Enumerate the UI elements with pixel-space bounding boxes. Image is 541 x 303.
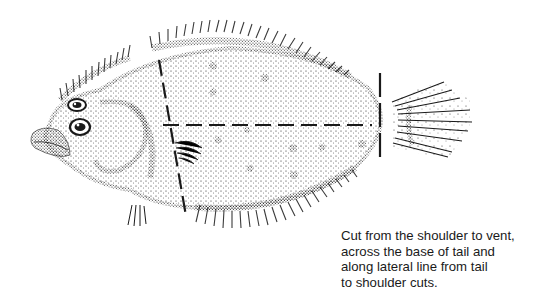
figure-caption: Cut from the shoulder to vent, across th… (341, 228, 541, 290)
caption-line: across the base of tail and (341, 244, 541, 260)
eye-lower (70, 119, 90, 135)
caption-line: along lateral line from tail (341, 259, 541, 275)
caption-line: to shoulder cuts. (341, 275, 541, 291)
eye-upper (68, 99, 86, 111)
tail-fin (392, 82, 472, 157)
pelvic-fin (128, 205, 146, 226)
caption-line: Cut from the shoulder to vent, (341, 228, 541, 244)
